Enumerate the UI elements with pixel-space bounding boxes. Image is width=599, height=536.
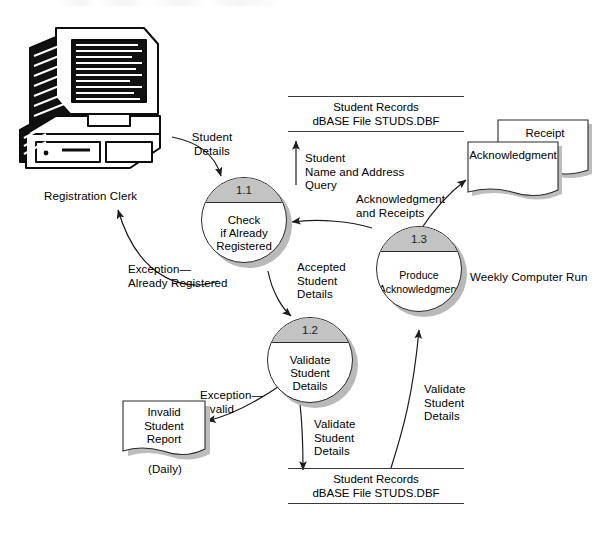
process-1-3-produce-acknowledgment[interactable]: 1.3 Produce Acknowledgment [376,226,462,312]
flow-label-validate-student-details-up: Validate Student Details [424,383,490,424]
document-invalid-student-report[interactable]: Invalid Student Report [120,398,222,464]
datastore-rule-bottom [288,131,464,132]
document-label-acknowledgment: Acknowledgment [466,149,560,163]
datastore-student-records-top[interactable]: Student Records dBASE File STUDS.DBF [288,96,464,132]
process-1-1-check-if-already-registered[interactable]: 1.1 Check if Already Registered [201,177,287,263]
document-caption-daily: (Daily) [120,463,210,477]
annotation-weekly-computer-run: Weekly Computer Run [470,271,595,285]
flow-label-student-name-address-query: Student Name and Address Query [305,152,417,193]
datastore-label-top: Student Records dBASE File STUDS.DBF [288,97,464,131]
datastore-student-records-bottom[interactable]: Student Records dBASE File STUDS.DBF [288,468,464,504]
flow-label-accepted-student-details: Accepted Student Details [297,261,367,302]
flow-line-validate-details-down [300,404,303,470]
document-label-invalid-student-report: Invalid Student Report [122,406,206,447]
entity-label-registration-clerk: Registration Clerk [44,190,174,204]
flow-label-exception-already-registered: Exception— Already Registered [128,263,258,290]
flow-line-check-to-produce [292,220,372,228]
document-stack-receipt-acknowledgment[interactable]: Receipt Acknowledgment [462,118,598,200]
datastore-rule-bottom [288,503,464,504]
datastore-label-bottom: Student Records dBASE File STUDS.DBF [288,469,464,503]
process-1-2-validate-student-details[interactable]: 1.2 Validate Student Details [267,317,353,403]
flow-label-acknowledgment-and-receipts: Acknowledgment and Receipts [356,193,472,220]
flow-label-validate-student-details-down: Validate Student Details [314,418,380,459]
desktop-computer-icon [12,22,192,182]
flow-line-accepted-student-details [268,271,291,316]
flow-line-validate-details-up [391,330,419,468]
document-label-receipt: Receipt [502,127,588,141]
dfd-canvas: Registration Clerk Student Records dBASE… [0,0,599,536]
